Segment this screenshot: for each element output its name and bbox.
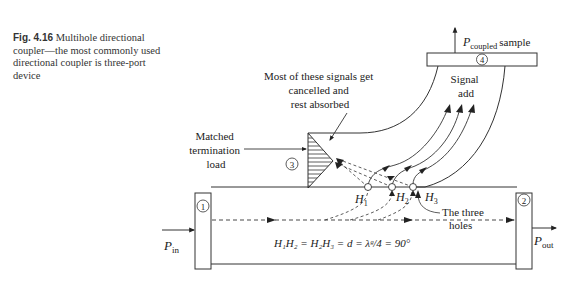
port-1-flange: 1	[195, 193, 211, 269]
spacing-equation: H₁H₂ = H₂H₃ = d = λᵍ/4 = 90°	[273, 237, 411, 249]
p-out-label: Pout	[533, 233, 554, 250]
p-in-label: Pin	[163, 238, 179, 255]
forward-coupled-signals	[368, 108, 472, 185]
multihole-coupler-diagram: 1 2 Pin Pout H₁H₂ = H₂H₃ = d = λᵍ/4 = 90…	[0, 0, 569, 290]
h3-label: H3	[424, 190, 438, 206]
port-2-number: 2	[522, 196, 527, 206]
signal-add-label: Signal add	[451, 73, 482, 99]
cancelled-label: Most of these signals get cancelled and …	[264, 70, 376, 110]
port-2-flange: 2	[516, 193, 532, 269]
matched-load: 3	[286, 133, 333, 188]
cancelled-pointer	[330, 113, 347, 140]
holes-label: The three holes	[442, 206, 487, 231]
port-1-number: 1	[201, 202, 206, 212]
h1-label: H1	[354, 192, 368, 208]
p-coupled-label: Pcoupledsample	[462, 35, 531, 51]
hole-h3	[410, 184, 417, 191]
forward-arrowheads	[382, 104, 475, 174]
h2-label: H2	[395, 190, 409, 206]
matched-load-label: Matched termination load	[189, 130, 242, 170]
port-4-flange: 4	[427, 53, 537, 66]
hole-h1	[365, 184, 372, 191]
hole-h2	[389, 184, 396, 191]
port-3-number: 3	[290, 160, 295, 170]
